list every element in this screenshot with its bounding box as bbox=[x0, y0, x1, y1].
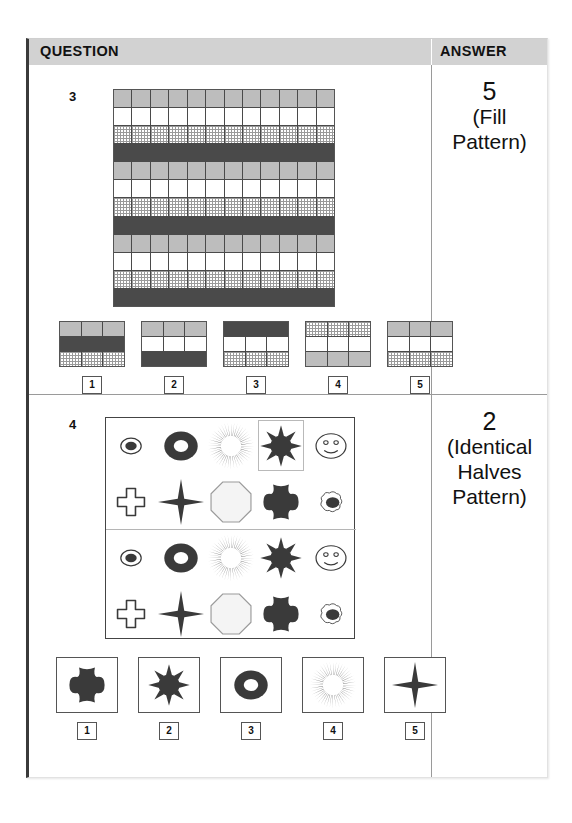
shape-sunburst bbox=[206, 418, 256, 473]
grid-cell bbox=[225, 108, 243, 125]
option-pattern bbox=[387, 321, 453, 367]
grid-cell bbox=[225, 235, 243, 252]
grid-cell bbox=[225, 253, 243, 270]
option-cell bbox=[60, 352, 82, 366]
option-cell bbox=[246, 352, 268, 366]
shape-donut bbox=[156, 530, 206, 585]
option-tile-q4-2[interactable]: 2 bbox=[138, 657, 200, 740]
option-tile-q3-4[interactable]: 4 bbox=[305, 321, 371, 394]
option-cell bbox=[142, 322, 164, 336]
shape-panel-top-half bbox=[106, 418, 356, 529]
grid-cell bbox=[206, 271, 224, 288]
option-cell bbox=[328, 322, 350, 336]
grid-cell bbox=[169, 108, 187, 125]
option-pattern bbox=[223, 321, 289, 367]
donut-icon bbox=[160, 539, 202, 577]
option-pattern bbox=[305, 321, 371, 367]
question-4-shape-panel bbox=[105, 417, 355, 639]
grid-cell bbox=[151, 271, 169, 288]
option-cell bbox=[306, 322, 328, 336]
grid-cell bbox=[206, 198, 224, 215]
grid-row bbox=[114, 235, 334, 253]
grid-cell bbox=[280, 90, 298, 107]
option-tile-q4-3[interactable]: 3 bbox=[220, 657, 282, 740]
grid-cell bbox=[317, 90, 334, 107]
grid-cell bbox=[206, 289, 224, 306]
question-4-options: 12345 bbox=[29, 657, 431, 737]
grid-cell bbox=[317, 162, 334, 179]
option-cell bbox=[103, 352, 124, 366]
grid-cell bbox=[206, 162, 224, 179]
answer-note-q3-line2: Pattern) bbox=[432, 129, 547, 154]
grid-cell bbox=[261, 217, 279, 234]
answer-note-q4-line3: Pattern) bbox=[432, 484, 547, 509]
option-tile-q3-2[interactable]: 2 bbox=[141, 321, 207, 394]
grid-cell bbox=[317, 253, 334, 270]
option-tile-q3-3[interactable]: 3 bbox=[223, 321, 289, 394]
option-tile-q4-4[interactable]: 4 bbox=[302, 657, 364, 740]
question-column-header: QUESTION bbox=[40, 43, 119, 59]
shape-four-point-star bbox=[156, 586, 206, 641]
option-label: 1 bbox=[82, 376, 102, 394]
grid-cell bbox=[280, 271, 298, 288]
shape-sun-boxed bbox=[256, 418, 306, 473]
grid-cell bbox=[261, 271, 279, 288]
answer-note-q4-line2: Halves bbox=[432, 459, 547, 484]
shape-dot-in-circle bbox=[106, 418, 156, 473]
grid-cell bbox=[280, 235, 298, 252]
option-cell bbox=[246, 322, 268, 336]
option-cell bbox=[388, 352, 410, 366]
grid-cell bbox=[280, 180, 298, 197]
sun-icon bbox=[259, 536, 303, 580]
grid-row bbox=[114, 162, 334, 180]
grid-cell bbox=[298, 289, 316, 306]
grid-cell bbox=[298, 108, 316, 125]
grid-cell bbox=[169, 198, 187, 215]
grid-cell bbox=[151, 108, 169, 125]
option-tile-q3-1[interactable]: 1 bbox=[59, 321, 125, 394]
grid-cell bbox=[114, 90, 132, 107]
grid-cell bbox=[298, 90, 316, 107]
scribble-blob-icon bbox=[316, 488, 346, 516]
option-label: 4 bbox=[323, 722, 343, 740]
grid-cell bbox=[114, 108, 132, 125]
grid-row bbox=[114, 108, 334, 126]
grid-cell bbox=[261, 289, 279, 306]
grid-cell bbox=[280, 198, 298, 215]
octagon-icon bbox=[208, 591, 254, 637]
option-cell bbox=[164, 352, 186, 366]
option-cell bbox=[142, 337, 164, 351]
grid-cell bbox=[169, 271, 187, 288]
grid-cell bbox=[132, 235, 150, 252]
cross-icon bbox=[115, 598, 147, 630]
grid-cell bbox=[114, 144, 132, 161]
option-cell bbox=[224, 337, 246, 351]
option-row bbox=[142, 337, 206, 352]
option-pattern bbox=[59, 321, 125, 367]
grid-cell bbox=[261, 108, 279, 125]
option-tile-q3-5[interactable]: 5 bbox=[387, 321, 453, 394]
option-cell bbox=[431, 322, 452, 336]
grid-cell bbox=[188, 289, 206, 306]
grid-cell bbox=[243, 289, 261, 306]
shape-four-point-star bbox=[156, 474, 206, 529]
grid-row bbox=[114, 198, 334, 216]
grid-cell bbox=[225, 126, 243, 143]
answer-note-q3-line1: (Fill bbox=[432, 104, 547, 129]
question-number-3: 3 bbox=[69, 89, 76, 104]
option-row bbox=[224, 337, 288, 352]
option-cell bbox=[410, 337, 432, 351]
grid-cell bbox=[243, 180, 261, 197]
grid-cell bbox=[132, 289, 150, 306]
grid-cell bbox=[151, 162, 169, 179]
option-cell bbox=[246, 337, 268, 351]
option-row bbox=[142, 352, 206, 366]
grid-cell bbox=[317, 217, 334, 234]
option-cell bbox=[328, 352, 350, 366]
shape-row bbox=[106, 474, 356, 529]
option-tile-q4-5[interactable]: 5 bbox=[384, 657, 446, 740]
grid-cell bbox=[114, 235, 132, 252]
shape-scribble-blob bbox=[306, 474, 356, 529]
grid-cell bbox=[188, 180, 206, 197]
option-tile-q4-1[interactable]: 1 bbox=[56, 657, 118, 740]
